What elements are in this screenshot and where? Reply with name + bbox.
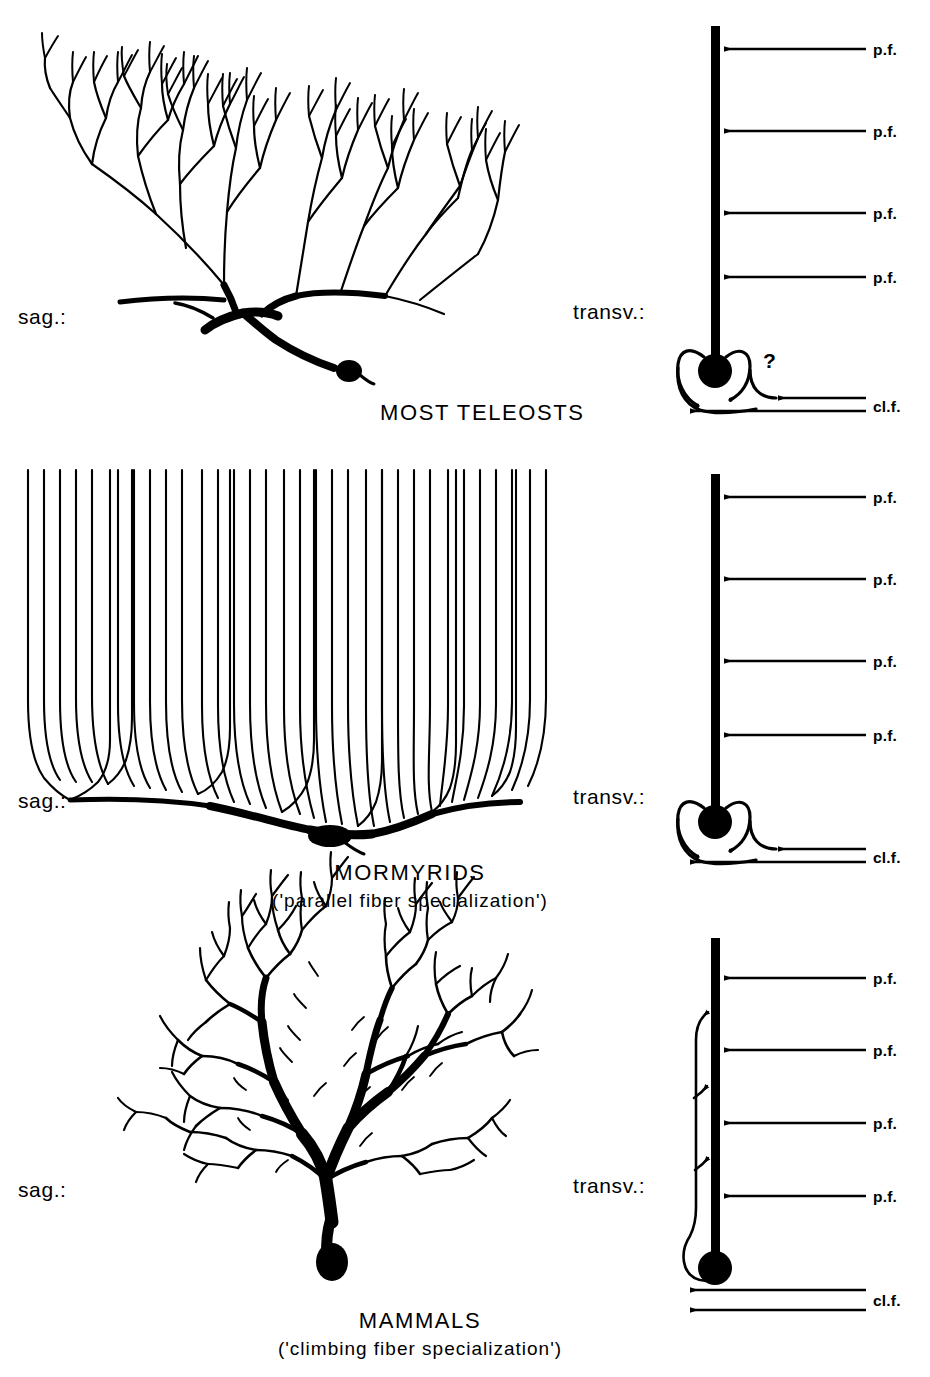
- parallel-fiber-label-mormyrids-1: p.f.: [873, 489, 897, 507]
- parallel-fiber-label-teleosts-4: p.f.: [873, 269, 897, 287]
- parallel-fiber-label-teleosts-1: p.f.: [873, 41, 897, 59]
- parallel-fiber-label-mammals-2: p.f.: [873, 1042, 897, 1060]
- parallel-fiber-label-mammals-3: p.f.: [873, 1115, 897, 1133]
- mormyrid-transverse-schematic: [678, 474, 866, 864]
- panel-subtitle-mormyrids: ('parallel fiber specialization'): [272, 890, 548, 912]
- mammal-pf-arrows: [724, 978, 866, 1196]
- parallel-fiber-label-mormyrids-4: p.f.: [873, 727, 897, 745]
- teleost-soma: [698, 354, 732, 388]
- transverse-view-label-teleosts: transv.:: [573, 300, 645, 324]
- sagittal-view-label-mammals: sag.:: [18, 1178, 67, 1202]
- mammal-sagittal-dendritic-tree: [118, 852, 538, 1281]
- panel-title-mammals: MAMMALS: [359, 1308, 481, 1334]
- mormyrid-soma: [698, 805, 732, 839]
- sagittal-view-label-teleosts: sag.:: [18, 305, 67, 329]
- purkinje-comparative-figure: sag.: transv.: p.f. p.f. p.f. p.f. cl.f.…: [0, 0, 930, 1377]
- teleost-sagittal-dendritic-tree: [42, 33, 519, 384]
- question-mark-annotation-teleosts: ?: [763, 349, 776, 373]
- parallel-fiber-label-teleosts-2: p.f.: [873, 123, 897, 141]
- climbing-fiber-label-mormyrids: cl.f.: [873, 849, 901, 867]
- sagittal-view-label-mormyrids: sag.:: [18, 789, 67, 813]
- parallel-fiber-label-mammals-4: p.f.: [873, 1188, 897, 1206]
- parallel-fiber-label-mormyrids-2: p.f.: [873, 571, 897, 589]
- mormyrid-dendrite-shaft: [711, 474, 720, 808]
- panel-title-most-teleosts: MOST TELEOSTS: [380, 400, 585, 426]
- mammal-dendrite-shaft: [711, 938, 720, 1258]
- mammal-climbing-fiber: [683, 1012, 708, 1281]
- panel-title-mormyrids: MORMYRIDS: [334, 860, 485, 886]
- climbing-fiber-label-teleosts: cl.f.: [873, 398, 901, 416]
- transverse-view-label-mammals: transv.:: [573, 1174, 645, 1198]
- teleost-pf-arrows: [724, 49, 866, 277]
- parallel-fiber-label-mammals-1: p.f.: [873, 970, 897, 988]
- parallel-fiber-label-teleosts-3: p.f.: [873, 205, 897, 223]
- mammal-transverse-schematic: [683, 938, 866, 1310]
- figure-artwork: [0, 0, 930, 1377]
- transverse-view-label-mormyrids: transv.:: [573, 785, 645, 809]
- climbing-fiber-label-mammals: cl.f.: [873, 1292, 901, 1310]
- mormyrid-pf-arrows: [724, 497, 866, 735]
- mormyrid-sagittal-dendritic-palisade: [28, 470, 546, 854]
- panel-subtitle-mammals: ('climbing fiber specialization'): [278, 1338, 562, 1360]
- teleost-dendrite-shaft: [711, 26, 720, 361]
- parallel-fiber-label-mormyrids-3: p.f.: [873, 653, 897, 671]
